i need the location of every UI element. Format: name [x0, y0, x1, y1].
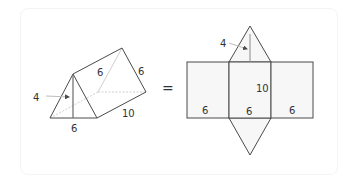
net-height-label: 4	[220, 38, 226, 49]
prism-height-label: 4	[33, 92, 39, 103]
net-right-face-label: 6	[289, 105, 295, 116]
prism-net-diagram: 4 6 6 10 6 = 4 10 6 6 6	[0, 0, 354, 179]
net-middle-face-label: 6	[246, 106, 252, 117]
prism-net: 4 10 6 6 6	[187, 26, 313, 155]
net-length-label: 10	[256, 83, 269, 94]
net-bottom-triangle	[229, 118, 271, 155]
prism-top-edge-label: 6	[97, 67, 103, 78]
equals-sign: =	[162, 80, 174, 96]
prism-length-label: 10	[122, 108, 135, 119]
prism-height-pointer-arrow	[46, 96, 69, 97]
triangular-prism: 4 6 6 10 6	[33, 48, 146, 134]
prism-base-label: 6	[71, 123, 77, 134]
prism-slant-edge-label: 6	[138, 66, 144, 77]
net-left-face-label: 6	[202, 105, 208, 116]
